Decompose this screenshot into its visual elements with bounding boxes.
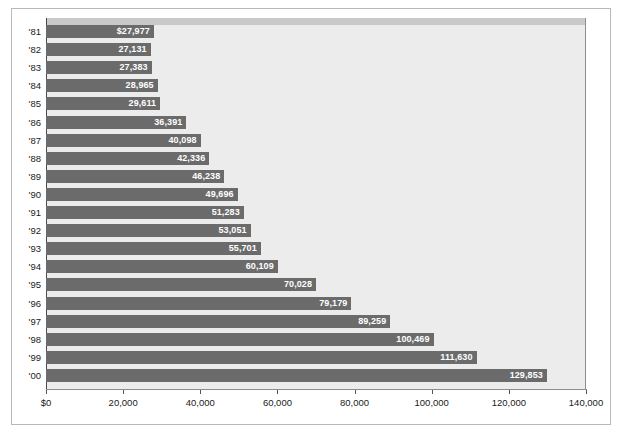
- plot-top-band: [46, 18, 585, 25]
- category-label: '85: [5, 97, 41, 110]
- x-axis-tick-mark: [277, 390, 278, 394]
- category-label: '92: [5, 224, 41, 237]
- x-axis-tick-label: 60,000: [263, 397, 292, 408]
- bar-row: 42,336: [46, 152, 586, 165]
- bar-value-label: 89,259: [46, 315, 386, 328]
- category-label: '94: [5, 260, 41, 273]
- bar-value-label: 51,283: [46, 206, 240, 219]
- bar-row: 27,131: [46, 43, 586, 56]
- bar-value-label: 49,696: [46, 188, 234, 201]
- bar-row: 129,853: [46, 369, 586, 382]
- bar-row: 28,965: [46, 79, 586, 92]
- category-label: '88: [5, 152, 41, 165]
- bar-value-label: 60,109: [46, 260, 274, 273]
- x-axis-tick-mark: [586, 390, 587, 394]
- bar-value-label: 27,383: [46, 61, 148, 74]
- x-axis-tick-mark: [46, 390, 47, 394]
- category-label: '90: [5, 188, 41, 201]
- bar-row: 100,469: [46, 333, 586, 346]
- bar-row: 70,028: [46, 278, 586, 291]
- category-label: '82: [5, 43, 41, 56]
- bar-value-label: 27,131: [46, 43, 147, 56]
- bar-value-label: 111,630: [46, 351, 473, 364]
- x-axis-tick-label: 80,000: [340, 397, 369, 408]
- bar-row: 49,696: [46, 188, 586, 201]
- category-label: '95: [5, 278, 41, 291]
- category-label: '81: [5, 25, 41, 38]
- bar-value-label: 42,336: [46, 152, 205, 165]
- bar-row: 53,051: [46, 224, 586, 237]
- category-label: '84: [5, 79, 41, 92]
- bar-row: 36,391: [46, 116, 586, 129]
- bar-row: 46,238: [46, 170, 586, 183]
- category-label: '89: [5, 170, 41, 183]
- category-label: '97: [5, 315, 41, 328]
- bar-value-label: $27,977: [46, 25, 150, 38]
- bar-row: 51,283: [46, 206, 586, 219]
- bar-value-label: 29,611: [46, 97, 156, 110]
- bar-row: 79,179: [46, 297, 586, 310]
- category-label: '91: [5, 206, 41, 219]
- x-axis-tick-mark: [123, 390, 124, 394]
- x-axis-tick-mark: [432, 390, 433, 394]
- category-label: '00: [5, 369, 41, 382]
- category-label: '99: [5, 351, 41, 364]
- bar-value-label: 40,098: [46, 134, 197, 147]
- bar-value-label: 129,853: [46, 369, 543, 382]
- category-label: '83: [5, 61, 41, 74]
- x-axis-tick-label: 140,000: [569, 397, 603, 408]
- bar-row: 111,630: [46, 351, 586, 364]
- bar-value-label: 100,469: [46, 333, 430, 346]
- bar-value-label: 79,179: [46, 297, 347, 310]
- bar-value-label: 55,701: [46, 242, 257, 255]
- x-axis-tick-label: 120,000: [492, 397, 526, 408]
- category-label: '87: [5, 134, 41, 147]
- x-axis-tick-label: $0: [41, 397, 52, 408]
- bar-row: 55,701: [46, 242, 586, 255]
- category-label: '93: [5, 242, 41, 255]
- bar-row: 89,259: [46, 315, 586, 328]
- x-axis-tick-label: 40,000: [186, 397, 215, 408]
- bar-value-label: 53,051: [46, 224, 247, 237]
- bar-value-label: 28,965: [46, 79, 154, 92]
- bar-row: 60,109: [46, 260, 586, 273]
- bar-row: $27,977: [46, 25, 586, 38]
- x-axis-tick-mark: [509, 390, 510, 394]
- bar-value-label: 46,238: [46, 170, 220, 183]
- bar-row: 29,611: [46, 97, 586, 110]
- x-axis-baseline: [46, 389, 587, 390]
- category-label: '86: [5, 116, 41, 129]
- bar-row: 27,383: [46, 61, 586, 74]
- category-label: '96: [5, 297, 41, 310]
- bar-row: 40,098: [46, 134, 586, 147]
- x-axis-tick-mark: [200, 390, 201, 394]
- x-axis-tick-label: 20,000: [109, 397, 138, 408]
- bar-value-label: 70,028: [46, 278, 312, 291]
- x-axis-tick-label: 100,000: [415, 397, 449, 408]
- bar-value-label: 36,391: [46, 116, 182, 129]
- category-label: '98: [5, 333, 41, 346]
- x-axis-tick-mark: [355, 390, 356, 394]
